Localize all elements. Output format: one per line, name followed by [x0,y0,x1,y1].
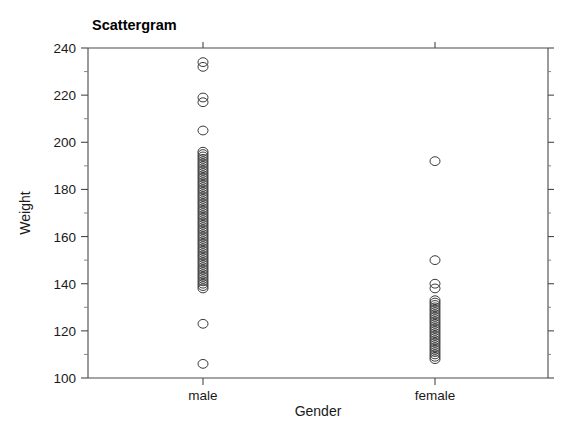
x-axis-ticks [203,42,435,385]
y-tick-label: 240 [53,41,76,56]
y-tick-label: 120 [53,324,76,339]
y-axis-tick-labels: 100120140160180200220240 [53,41,76,386]
x-tick-label: male [188,388,217,403]
x-tick-label: female [415,388,456,403]
y-tick-label: 160 [53,230,76,245]
scattergram-figure: 100120140160180200220240 malefemale Scat… [0,0,578,432]
y-tick-label: 100 [53,371,76,386]
data-point [198,126,208,135]
y-tick-label: 220 [53,88,76,103]
y-tick-label: 180 [53,182,76,197]
data-point [198,319,208,328]
chart-title: Scattergram [92,17,177,33]
y-tick-label: 140 [53,277,76,292]
data-point [430,157,440,166]
x-axis-title: Gender [295,403,342,419]
y-tick-label: 200 [53,135,76,150]
data-series-male [198,58,208,369]
data-point [198,359,208,368]
y-axis-title: Weight [17,191,33,234]
y-axis-right-ticks [548,48,554,378]
data-point [430,256,440,265]
plot-frame [88,48,548,378]
x-axis-tick-labels: malefemale [188,388,455,403]
data-series-female [430,157,440,364]
chart-canvas: 100120140160180200220240 malefemale Scat… [0,0,578,432]
y-axis-minor-ticks [84,72,88,355]
